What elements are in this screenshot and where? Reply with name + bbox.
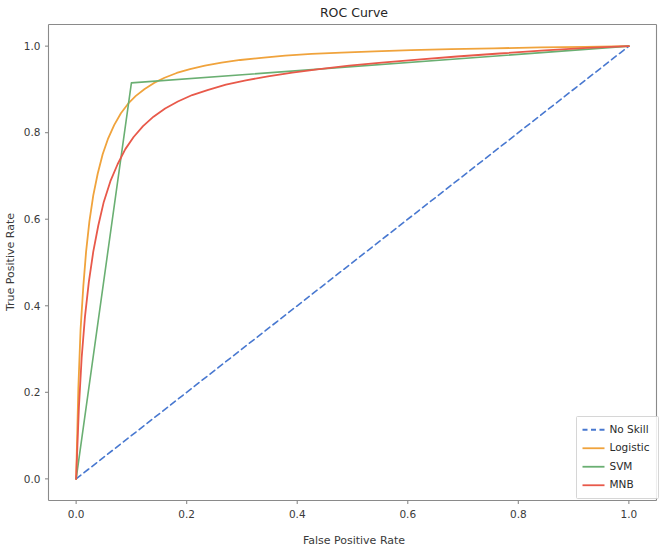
x-tick-label: 1.0 [621,508,638,520]
legend-label-svm: SVM [610,460,633,472]
y-tick-label: 0.2 [24,386,41,398]
y-tick-label: 0.8 [24,126,41,138]
y-tick-label: 1.0 [24,40,41,52]
x-tick-label: 0.6 [399,508,416,520]
legend-label-no-skill: No Skill [610,423,649,435]
x-axis-label: False Positive Rate [303,534,405,547]
chart-title: ROC Curve [320,5,388,20]
x-tick-label: 0.4 [289,508,306,520]
y-tick-label: 0.6 [24,213,41,225]
legend-label-mnb: MNB [610,478,634,490]
x-tick-label: 0.2 [178,508,195,520]
x-tick-label: 0.8 [510,508,527,520]
roc-curve-figure: ROC Curve 0.00.20.40.60.81.0 0.00.20.40.… [0,0,661,552]
y-tick-label: 0.4 [24,300,41,312]
figure-background [0,0,661,552]
chart-legend: No SkillLogisticSVMMNB [577,417,659,499]
y-tick-label: 0.0 [24,473,41,485]
roc-curve-plot: ROC Curve 0.00.20.40.60.81.0 0.00.20.40.… [0,0,661,552]
x-tick-label: 0.0 [68,508,85,520]
legend-label-logistic: Logistic [610,441,650,453]
y-axis-label: True Positive Rate [4,213,17,312]
